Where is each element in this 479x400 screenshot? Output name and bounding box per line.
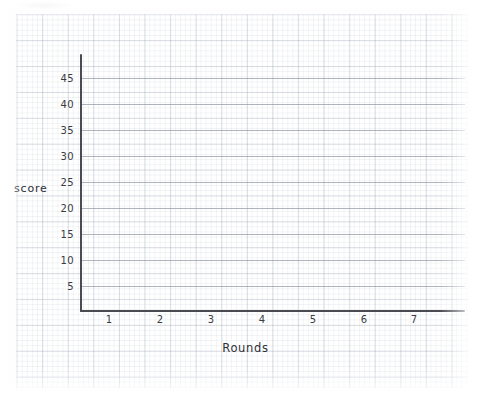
plot-area [81, 55, 465, 311]
gridline-25 [81, 182, 465, 183]
gridline-30 [81, 156, 465, 157]
gridline-15 [81, 234, 465, 235]
x-axis-title: Rounds [0, 341, 479, 355]
gridline-20 [81, 208, 465, 209]
y-tick-label: 20 [48, 203, 74, 214]
y-tick-label: 25 [48, 177, 74, 188]
y-tick-label: 10 [48, 255, 74, 266]
gridline-10 [81, 260, 465, 261]
gridline-5 [81, 286, 465, 287]
y-axis-title: score [14, 182, 48, 195]
y-tick-label: 45 [48, 73, 74, 84]
x-tick-label: 1 [97, 314, 121, 325]
y-tick-label: 40 [48, 99, 74, 110]
x-tick-label: 3 [199, 314, 223, 325]
gridline-45 [81, 78, 465, 79]
y-tick-label-group: 45 40 35 30 25 20 15 10 5 [48, 0, 74, 400]
x-tick-label: 4 [250, 314, 274, 325]
x-axis-line [80, 310, 465, 312]
y-tick-label: 35 [48, 125, 74, 136]
y-tick-label: 15 [48, 229, 74, 240]
x-tick-label: 2 [148, 314, 172, 325]
y-tick-label: 5 [48, 281, 74, 292]
x-tick-label: 7 [402, 314, 426, 325]
y-tick-label: 30 [48, 151, 74, 162]
x-tick-label: 6 [352, 314, 376, 325]
graph-paper-chart-page: 45 40 35 30 25 20 15 10 5 1 2 3 4 5 6 7 … [0, 0, 479, 400]
gridline-40 [81, 104, 465, 105]
gridline-35 [81, 130, 465, 131]
y-axis-line [80, 54, 82, 312]
x-tick-label: 5 [301, 314, 325, 325]
